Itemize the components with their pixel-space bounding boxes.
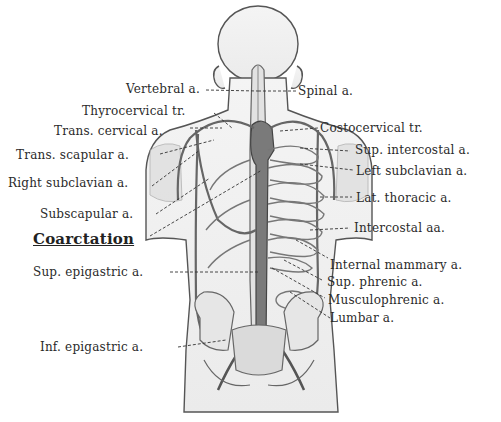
label-trans-scapular-a: Trans. scapular a. xyxy=(16,148,129,162)
label-costocervical-tr: Costocervical tr. xyxy=(320,121,423,135)
label-trans-cervical-a: Trans. cervical a. xyxy=(54,124,163,138)
label-internal-mammary-a: Internal mammary a. xyxy=(330,258,462,272)
label-right-subclavian-a: Right subclavian a. xyxy=(8,176,128,190)
label-coarctation: Coarctation xyxy=(33,232,134,246)
label-subscapular-a: Subscapular a. xyxy=(40,207,133,221)
label-spinal-a: Spinal a. xyxy=(298,84,353,98)
label-inf-epigastric-a: Inf. epigastric a. xyxy=(40,340,143,354)
label-intercostal-aa: Intercostal aa. xyxy=(354,221,445,235)
label-vertebral-a: Vertebral a. xyxy=(126,82,200,96)
label-lat-thoracic-a: Lat. thoracic a. xyxy=(356,191,452,205)
label-thyrocervical-tr: Thyrocervical tr. xyxy=(82,104,186,118)
label-lumbar-a: Lumbar a. xyxy=(330,311,394,325)
label-sup-epigastric-a: Sup. epigastric a. xyxy=(33,265,143,279)
label-sup-phrenic-a: Sup. phrenic a. xyxy=(327,275,423,289)
anatomy-diagram: Vertebral a. Thyrocervical tr. Trans. ce… xyxy=(0,0,501,422)
label-musculophrenic-a: Musculophrenic a. xyxy=(328,293,444,307)
label-left-subclavian-a: Left subclavian a. xyxy=(356,164,467,178)
label-sup-intercostal-a: Sup. intercostal a. xyxy=(355,143,470,157)
